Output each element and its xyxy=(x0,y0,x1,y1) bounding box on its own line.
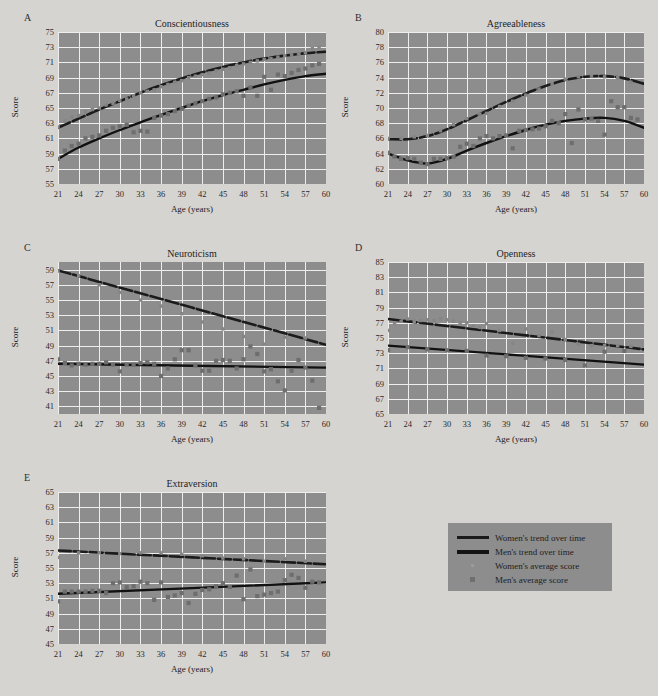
data-point xyxy=(317,406,321,410)
y-axis-tick-label: 55 xyxy=(28,180,54,189)
data-point xyxy=(111,363,115,367)
panel-letter-e: E xyxy=(24,472,30,483)
x-axis-label: Age (years) xyxy=(388,204,644,214)
data-point xyxy=(550,330,553,333)
data-point xyxy=(388,151,390,155)
data-point xyxy=(290,573,294,577)
data-point xyxy=(283,557,286,560)
data-point xyxy=(58,556,60,559)
y-axis-tick-label: 55 xyxy=(28,296,54,305)
data-point xyxy=(159,85,162,88)
x-axis-tick-label: 60 xyxy=(312,190,340,199)
data-point xyxy=(439,129,442,132)
data-point xyxy=(276,55,279,58)
series-layer-e xyxy=(58,492,326,644)
data-point xyxy=(432,319,435,322)
data-point xyxy=(590,74,593,77)
data-point xyxy=(58,269,60,272)
data-point xyxy=(485,322,488,325)
data-point xyxy=(153,88,156,91)
data-point xyxy=(269,57,272,60)
data-point xyxy=(296,68,300,72)
data-point xyxy=(193,101,197,105)
y-axis-tick-label: 55 xyxy=(28,564,54,573)
data-point xyxy=(221,581,225,585)
data-point xyxy=(77,142,81,146)
y-axis-tick-label: 61 xyxy=(28,134,54,143)
data-point xyxy=(166,83,169,86)
data-point xyxy=(310,63,314,67)
data-point xyxy=(399,137,402,140)
y-axis-tick-label: 49 xyxy=(28,342,54,351)
data-point xyxy=(125,363,129,367)
data-point xyxy=(498,329,501,332)
data-point xyxy=(118,369,122,373)
data-point xyxy=(145,581,149,585)
data-point xyxy=(145,130,149,134)
data-point xyxy=(458,145,462,149)
data-point xyxy=(283,54,286,57)
panel-letter-a: A xyxy=(24,12,32,23)
x-axis-tick-label: 60 xyxy=(630,420,658,429)
data-point xyxy=(83,136,87,140)
data-point xyxy=(180,79,183,82)
data-point xyxy=(77,551,80,554)
data-point xyxy=(290,53,293,56)
data-point xyxy=(255,352,259,356)
data-point xyxy=(255,94,259,98)
data-point xyxy=(104,129,108,133)
data-point xyxy=(484,134,488,138)
data-point xyxy=(413,320,416,323)
data-point xyxy=(537,334,540,337)
data-point xyxy=(629,116,633,120)
data-point xyxy=(193,592,197,596)
data-point xyxy=(70,590,74,594)
data-point xyxy=(498,105,501,108)
data-point xyxy=(187,348,191,352)
data-point xyxy=(283,336,286,339)
data-point xyxy=(90,589,94,593)
data-point xyxy=(290,369,294,373)
data-point xyxy=(616,76,619,79)
data-point xyxy=(241,357,245,361)
y-axis-tick-label: 51 xyxy=(28,594,54,603)
data-point xyxy=(388,348,390,352)
y-axis-tick-label: 63 xyxy=(28,119,54,128)
data-point xyxy=(63,361,67,365)
data-point xyxy=(465,117,468,120)
data-point xyxy=(310,580,314,584)
data-point xyxy=(138,580,142,584)
data-point xyxy=(393,321,396,324)
men-average-points xyxy=(58,567,321,605)
data-point xyxy=(180,312,183,315)
data-point xyxy=(214,69,217,72)
data-point xyxy=(159,374,163,378)
data-point xyxy=(622,349,626,353)
x-axis-tick-label: 60 xyxy=(630,190,658,199)
data-point xyxy=(616,105,620,109)
data-point xyxy=(290,71,294,75)
y-axis-tick-label: 72 xyxy=(358,89,384,98)
women-trend-line-icon xyxy=(456,531,490,544)
data-point xyxy=(465,142,469,146)
x-axis-tick-label: 60 xyxy=(312,650,340,659)
data-point xyxy=(138,361,142,365)
data-point xyxy=(283,578,287,582)
y-axis-tick-label: 60 xyxy=(358,180,384,189)
data-point xyxy=(310,379,314,383)
data-point xyxy=(90,135,94,139)
data-point xyxy=(304,560,307,563)
data-point xyxy=(629,81,632,84)
y-axis-tick-label: 66 xyxy=(358,134,384,143)
data-point xyxy=(118,552,121,555)
data-point xyxy=(248,567,252,571)
data-point xyxy=(242,557,245,560)
data-point xyxy=(393,155,397,159)
y-axis-tick-label: 75 xyxy=(358,334,384,343)
data-point xyxy=(58,125,60,128)
data-point xyxy=(235,574,239,578)
data-point xyxy=(208,71,211,74)
data-point xyxy=(452,123,455,126)
y-axis-label: Score xyxy=(340,307,350,367)
data-point xyxy=(426,318,429,321)
